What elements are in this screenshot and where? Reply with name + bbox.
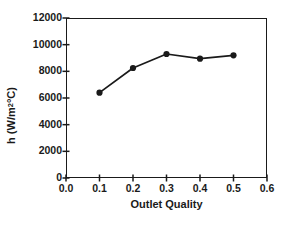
x-axis-tick-labels: 0.00.10.20.30.40.50.6 xyxy=(0,182,288,198)
plot-area xyxy=(66,18,267,178)
y-axis-title-prefix: h (W/m xyxy=(5,107,17,144)
x-axis-tick-label: 0.3 xyxy=(150,182,184,194)
y-axis-tick-label: 10000 xyxy=(20,39,62,50)
x-axis-tick-label: 0.5 xyxy=(217,182,251,194)
x-axis-title: Outlet Quality xyxy=(66,198,267,210)
x-axis-tick-label: 0.0 xyxy=(49,182,83,194)
x-axis-tick-label: 0.1 xyxy=(83,182,117,194)
x-axis-tick-label: 0.6 xyxy=(250,182,284,194)
x-axis-tick-label: 0.4 xyxy=(183,182,217,194)
y-axis-tick-label: 2000 xyxy=(20,145,62,156)
y-axis-tick-label: 4000 xyxy=(20,119,62,130)
x-axis-tick-label: 0.2 xyxy=(116,182,150,194)
chart-container: h (W/m2 °C) 020004000600080001000012000 … xyxy=(0,0,288,231)
y-axis-tick-label: 6000 xyxy=(20,92,62,103)
y-axis-title-degree: °C) xyxy=(5,87,17,103)
y-axis-tick-label: 12000 xyxy=(20,12,62,23)
y-axis-tick-label: 8000 xyxy=(20,65,62,76)
